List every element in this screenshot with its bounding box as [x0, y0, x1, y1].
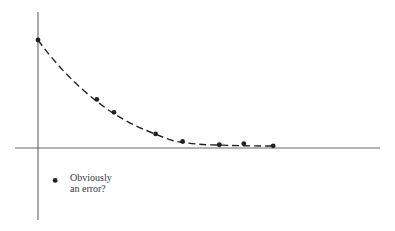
- decay-plot: [0, 0, 395, 231]
- data-point: [153, 132, 158, 137]
- data-point: [241, 141, 246, 146]
- data-point: [112, 110, 117, 115]
- annotation-line-1: Obviously: [70, 172, 112, 183]
- annotation-line-2: an error?: [70, 183, 112, 194]
- data-point: [94, 97, 99, 102]
- data-point: [180, 139, 185, 144]
- data-points: [36, 38, 276, 183]
- data-point: [217, 142, 222, 147]
- data-point: [36, 38, 41, 43]
- fitted-curve: [38, 40, 274, 146]
- outlier-annotation: Obviously an error?: [70, 172, 112, 194]
- data-point: [271, 143, 276, 148]
- outlier-point: [53, 178, 58, 183]
